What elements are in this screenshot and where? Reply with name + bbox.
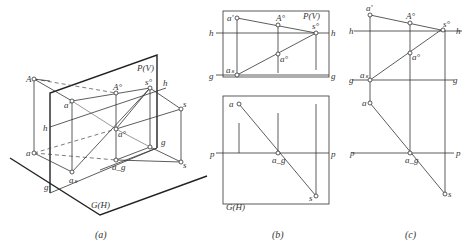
caption-a: (a) [95, 229, 107, 241]
label-p-right: p [330, 149, 336, 159]
caption-c: (c) [405, 229, 417, 241]
line-s-v-s [150, 88, 181, 109]
projection-diagram: A a' A° s° h h a° a s g aₛ a_g s g P(V) … [0, 0, 467, 247]
label-g-right: g [331, 71, 336, 81]
line-a-s-s-v [370, 30, 441, 80]
label-plane-h: G(H) [226, 202, 245, 212]
point-a-s [235, 73, 239, 77]
point-a-prime [235, 16, 239, 20]
line-g-s [150, 147, 181, 162]
label-a-g: a_g [272, 155, 286, 165]
point-s [314, 194, 318, 198]
label-h-left: h [209, 28, 214, 38]
label-a-g: a_g [405, 155, 419, 165]
label-s: s [448, 189, 452, 199]
point-a [237, 102, 241, 106]
point-A [32, 77, 36, 81]
point-A-v [408, 21, 412, 25]
label-s: s [309, 193, 313, 203]
label-A: A [25, 74, 32, 84]
line-a-v-s-v [116, 88, 150, 129]
label-a: a [229, 99, 234, 109]
line-a-prime-a-v [72, 101, 116, 129]
line-a-s [370, 103, 445, 194]
panel-b: a' A° s° h h a° g aₛ g P(V) a p a_g p s … [209, 11, 336, 241]
point-A-v [276, 23, 280, 27]
v-plane-outline [50, 55, 157, 193]
label-a-prime: a' [227, 13, 235, 23]
label-g-right: g [161, 137, 166, 147]
panel-a: A a' A° s° h h a° a s g aₛ a_g s g P(V) … [10, 55, 207, 241]
label-h-left: h [43, 123, 48, 133]
label-g-right: g [453, 75, 458, 85]
point-a [32, 151, 36, 155]
point-s-v [314, 31, 318, 35]
label-a-s: aₛ [69, 175, 78, 185]
label-p-left: p [349, 148, 355, 158]
label-s-v: s° [145, 77, 153, 87]
label-a-v: a° [280, 54, 289, 64]
label-h-left: h [349, 26, 354, 36]
label-p-right: p [455, 148, 461, 158]
label-g-left: g [44, 182, 49, 192]
label-h-right: h [456, 26, 461, 36]
point-a [368, 101, 372, 105]
point-a-s [368, 78, 372, 82]
point-s [443, 192, 447, 196]
label-g-left: g [349, 75, 354, 85]
line-a-a-s [34, 153, 72, 172]
label-A-v: A° [112, 82, 122, 92]
label-s-upper: s [183, 99, 187, 109]
label-A-v: A° [405, 11, 415, 21]
label-s-lower: s [183, 160, 187, 170]
label-h-right: h [163, 78, 168, 88]
label-a-s: aₛ [226, 65, 235, 75]
panel-c: a' A° s° h h a° g aₛ g a p a_g p s (c) [349, 3, 462, 241]
line-a-prime-s-v [72, 88, 150, 101]
label-p-left: p [209, 149, 215, 159]
label-a-g: a_g [112, 162, 126, 172]
point-a-prime [70, 99, 74, 103]
ground-line-g [50, 148, 157, 193]
label-s-v: s° [312, 21, 320, 31]
label-a-v: a° [412, 52, 421, 62]
label-a: a [362, 98, 367, 108]
label-s-v: s° [443, 19, 451, 29]
label-g-left: g [209, 71, 214, 81]
point-a-s [70, 170, 74, 174]
label-a-v: a° [118, 129, 127, 139]
line-A-a-prime [34, 79, 72, 101]
caption-b: (b) [272, 229, 284, 241]
line-a-s [239, 104, 316, 196]
label-a: a [26, 148, 31, 158]
label-h-right: h [331, 28, 336, 38]
label-plane-v: P(V) [136, 63, 154, 73]
label-plane-v: P(V) [302, 11, 320, 21]
label-a-prime: a' [64, 100, 72, 110]
point-a-prime [368, 13, 372, 17]
label-A-v: A° [275, 13, 285, 23]
label-a-prime: a' [366, 3, 374, 13]
label-plane-h: G(H) [91, 200, 110, 210]
line-a-v-s [116, 109, 181, 129]
point-g [148, 145, 152, 149]
label-a-s: aₛ [360, 70, 369, 80]
